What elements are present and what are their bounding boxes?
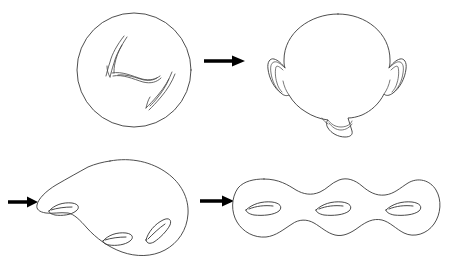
panel-sphere-with-slits — [77, 13, 191, 127]
topology-figure: Deformation of a sphere with three slits… — [0, 0, 452, 269]
panel-genus-three-surface — [233, 179, 440, 237]
figure-canvas: Deformation of a sphere with three slits… — [0, 0, 452, 269]
sphere-outline — [77, 13, 191, 127]
